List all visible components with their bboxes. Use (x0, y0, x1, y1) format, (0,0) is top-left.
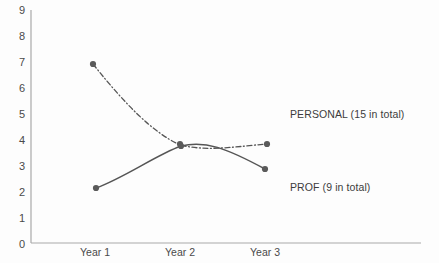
line-chart: 9 8 7 6 5 4 3 2 1 0 Year 1 Year 2 Year 3… (0, 0, 439, 263)
data-point-personal-year-3 (264, 141, 270, 147)
plot-area (0, 0, 439, 263)
data-point-personal-year-1 (90, 61, 96, 67)
data-point-prof-year-3 (262, 166, 268, 172)
series-line-personal (93, 64, 267, 148)
data-point-prof-year-2 (178, 143, 184, 149)
series-line-prof (96, 144, 265, 188)
data-point-prof-year-1 (93, 185, 99, 191)
